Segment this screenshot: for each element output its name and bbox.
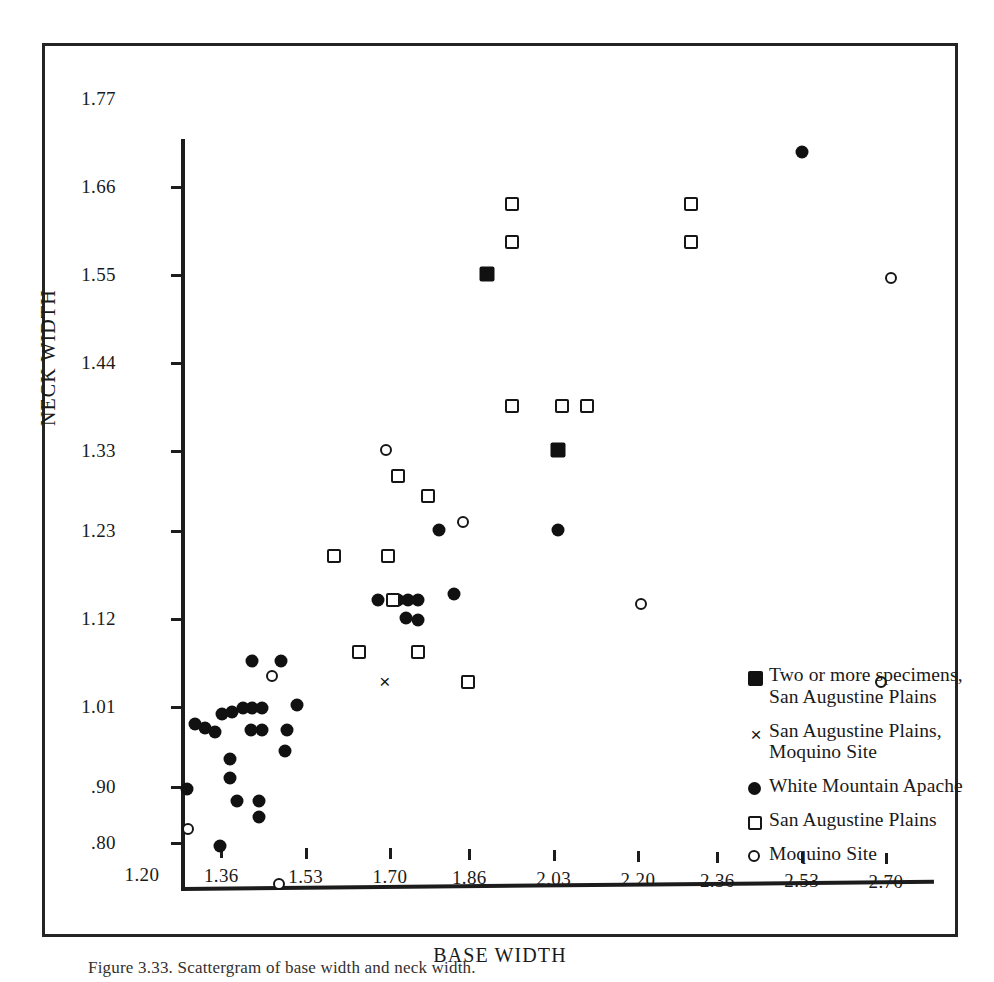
y-axis-tick [171, 186, 182, 189]
open-square-marker [505, 235, 519, 249]
open-circle-marker [182, 823, 194, 835]
open-square-marker [555, 399, 569, 413]
y-axis-tick [171, 530, 182, 533]
filled-circle-marker [245, 724, 258, 737]
y-axis-tick [171, 274, 182, 277]
filled-circle-marker [223, 771, 236, 784]
figure-frame: 1.771.661.551.441.331.231.121.01.90.80 1… [42, 43, 958, 937]
filled-circle-marker [433, 524, 446, 537]
filled-circle-marker [223, 752, 236, 765]
open-square-marker [505, 197, 519, 211]
y-axis-tick-label: .90 [46, 777, 116, 796]
legend-swatch [745, 664, 769, 686]
open-circle-marker [748, 850, 760, 862]
y-axis-title: NECK WIDTH [37, 289, 60, 426]
legend-label: San Augustine Plains [769, 809, 937, 831]
x-axis-tick-label: 1.20 [102, 865, 182, 884]
filled-circle-marker [213, 839, 226, 852]
open-square-marker [411, 645, 425, 659]
open-square-marker [391, 469, 405, 483]
figure-caption: Figure 3.33. Scattergram of base width a… [88, 958, 476, 978]
legend-label: Moquino Site [769, 843, 877, 865]
legend-label: Two or more specimens,San Augustine Plai… [769, 664, 963, 708]
filled-square-marker [479, 267, 494, 282]
open-circle-marker [380, 444, 392, 456]
open-square-marker [580, 399, 594, 413]
cross-marker: × [377, 674, 393, 690]
filled-circle-marker [280, 724, 293, 737]
open-circle-marker [457, 516, 469, 528]
open-square-marker [327, 549, 341, 563]
filled-square-marker [551, 443, 566, 458]
y-axis-tick-label: 1.77 [46, 89, 116, 108]
y-axis-tick-label: 1.55 [46, 265, 116, 284]
open-circle-marker [635, 598, 647, 610]
filled-circle-marker [748, 782, 761, 795]
open-square-marker [386, 593, 400, 607]
filled-circle-marker [412, 614, 425, 627]
legend-item: San Augustine Plains [745, 809, 985, 831]
legend-label: White Mountain Apache [769, 775, 963, 797]
legend-item: Two or more specimens,San Augustine Plai… [745, 664, 985, 708]
filled-circle-marker [253, 810, 266, 823]
filled-circle-marker [256, 701, 269, 714]
y-axis-tick-label: 1.33 [46, 441, 116, 460]
open-square-marker [748, 816, 762, 830]
cross-marker: × [748, 727, 764, 743]
filled-circle-marker [400, 612, 413, 625]
open-square-marker [505, 399, 519, 413]
open-circle-marker [885, 272, 897, 284]
filled-circle-marker [180, 782, 193, 795]
y-axis-tick [171, 706, 182, 709]
legend-item: Moquino Site [745, 843, 985, 865]
y-axis-tick [171, 362, 182, 365]
filled-circle-marker [448, 588, 461, 601]
y-axis-tick [171, 618, 182, 621]
open-square-marker [684, 197, 698, 211]
filled-circle-marker [230, 794, 243, 807]
filled-circle-marker [279, 745, 292, 758]
chart-legend: Two or more specimens,San Augustine Plai… [745, 664, 985, 877]
y-axis-tick-label: 1.23 [46, 521, 116, 540]
legend-swatch: × [745, 720, 769, 742]
open-square-marker [421, 489, 435, 503]
filled-circle-marker [246, 655, 259, 668]
filled-circle-marker [216, 708, 229, 721]
filled-circle-marker [274, 655, 287, 668]
filled-circle-marker [795, 146, 808, 159]
y-axis-tick-label: 1.12 [46, 609, 116, 628]
legend-swatch [745, 843, 769, 865]
open-circle-marker [266, 670, 278, 682]
open-circle-marker [273, 878, 285, 890]
legend-swatch [745, 809, 769, 831]
open-square-marker [352, 645, 366, 659]
y-axis-tick-label: 1.66 [46, 177, 116, 196]
filled-square-marker [748, 671, 763, 686]
legend-label: San Augustine Plains,Moquino Site [769, 720, 942, 764]
legend-item: ×San Augustine Plains,Moquino Site [745, 720, 985, 764]
legend-swatch [745, 775, 769, 797]
filled-circle-marker [188, 717, 201, 730]
open-square-marker [381, 549, 395, 563]
legend-item: White Mountain Apache [745, 775, 985, 797]
filled-circle-marker [253, 794, 266, 807]
y-axis-tick-label: 1.01 [46, 697, 116, 716]
filled-circle-marker [291, 699, 304, 712]
open-square-marker [461, 675, 475, 689]
y-axis-tick [171, 450, 182, 453]
y-axis-tick [171, 842, 182, 845]
filled-circle-marker [552, 524, 565, 537]
filled-circle-marker [209, 726, 222, 739]
open-square-marker [684, 235, 698, 249]
filled-circle-marker [372, 593, 385, 606]
y-axis-tick-label: .80 [46, 833, 116, 852]
